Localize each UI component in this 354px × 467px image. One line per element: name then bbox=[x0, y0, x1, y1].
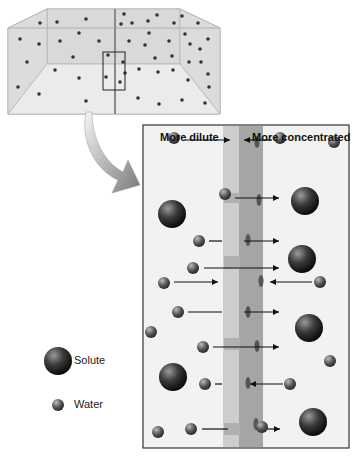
tank-particle bbox=[167, 39, 171, 43]
tank-particle bbox=[183, 32, 187, 36]
tank-particle bbox=[38, 21, 42, 25]
tank-particle bbox=[196, 21, 200, 25]
membrane-dark bbox=[239, 126, 263, 447]
tank-particle bbox=[104, 75, 108, 79]
water-molecule bbox=[314, 276, 326, 288]
tank-particle bbox=[136, 96, 140, 100]
label-more-concentrated: More concentrated bbox=[252, 131, 350, 143]
tank-particle bbox=[37, 42, 41, 46]
legend-water-label: Water bbox=[74, 398, 103, 410]
solute-molecule bbox=[158, 200, 186, 228]
tank-particle bbox=[198, 47, 202, 51]
tank-particle bbox=[53, 68, 57, 72]
solute-molecule bbox=[299, 408, 327, 436]
tank-particle bbox=[18, 37, 22, 41]
tank-particle bbox=[186, 78, 190, 82]
tank-particle bbox=[147, 31, 151, 35]
tank-particle bbox=[127, 39, 131, 43]
tank-particle bbox=[58, 39, 62, 43]
tank-particle bbox=[170, 54, 174, 58]
water-molecule bbox=[172, 306, 184, 318]
tank-particle bbox=[84, 99, 88, 103]
tank-particle bbox=[84, 17, 88, 21]
tank-particle bbox=[55, 20, 59, 24]
legend-solute-icon bbox=[44, 347, 72, 375]
curved-arrow-icon bbox=[85, 112, 140, 193]
tank-particle bbox=[187, 60, 191, 64]
solute-molecule bbox=[159, 363, 187, 391]
tank-particle bbox=[207, 85, 211, 89]
solute-molecule bbox=[291, 187, 319, 215]
tank-particle bbox=[180, 14, 184, 18]
tank-particle bbox=[119, 22, 123, 26]
water-molecule bbox=[158, 277, 170, 289]
water-molecule bbox=[219, 188, 231, 200]
tank-particle bbox=[143, 43, 147, 47]
membrane-light bbox=[223, 126, 239, 447]
tank-particle bbox=[146, 19, 150, 23]
tank-particle bbox=[25, 60, 29, 64]
water-molecule bbox=[256, 421, 268, 433]
water-molecule bbox=[324, 355, 336, 367]
tank-particle bbox=[172, 21, 176, 25]
tank-particle bbox=[118, 80, 122, 84]
legend-solute-label: Solute bbox=[74, 354, 105, 366]
tank-particle bbox=[97, 39, 101, 43]
tank-particle bbox=[77, 31, 81, 35]
tank-particle bbox=[199, 60, 203, 64]
tank-particle bbox=[180, 98, 184, 102]
tank-particle bbox=[77, 76, 81, 80]
water-molecule bbox=[145, 326, 157, 338]
tank-particle bbox=[188, 42, 192, 46]
tank-particle bbox=[156, 70, 160, 74]
solute-molecule bbox=[288, 245, 316, 273]
water-molecule bbox=[193, 235, 205, 247]
tank-particle bbox=[121, 60, 125, 64]
tank-particle bbox=[206, 72, 210, 76]
tank-particle bbox=[206, 37, 210, 41]
water-molecule bbox=[187, 262, 199, 274]
tank-particle bbox=[137, 67, 141, 71]
tank-particle bbox=[171, 68, 175, 72]
water-molecule bbox=[152, 426, 164, 438]
tank-particle bbox=[157, 102, 161, 106]
solute-molecule bbox=[295, 314, 323, 342]
tank-particle bbox=[71, 55, 75, 59]
tank-diagram bbox=[0, 0, 354, 467]
water-molecule bbox=[284, 378, 296, 390]
tank-particle bbox=[153, 56, 157, 60]
tank-particle bbox=[37, 92, 41, 96]
tank-particle bbox=[155, 13, 159, 17]
water-molecule bbox=[197, 341, 209, 353]
tank-particle bbox=[122, 12, 126, 16]
water-molecule bbox=[185, 423, 197, 435]
label-more-dilute: More dilute bbox=[160, 131, 219, 143]
tank-particle bbox=[130, 21, 134, 25]
water-molecule bbox=[199, 378, 211, 390]
legend-water-icon bbox=[52, 399, 64, 411]
tank-particle bbox=[16, 85, 20, 89]
tank-particle bbox=[106, 53, 110, 57]
tank-particle bbox=[203, 101, 207, 105]
